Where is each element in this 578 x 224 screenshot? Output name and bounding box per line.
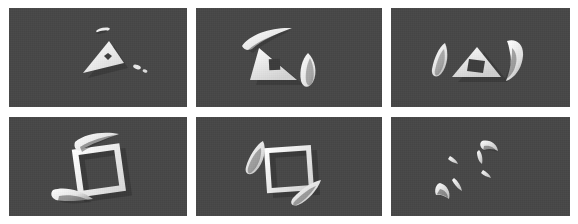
panel-6-canvas — [391, 117, 570, 216]
triangle-aperture-quad — [467, 59, 485, 73]
fragment-e — [452, 178, 462, 191]
panel-5: Panel 5 — [196, 117, 382, 216]
fragment-c — [448, 156, 458, 164]
panel-3-canvas — [391, 8, 570, 107]
panel-1: Panel 1 — [9, 8, 187, 107]
panel-2-canvas — [196, 8, 382, 107]
panel-4: Panel 4 — [9, 117, 187, 216]
figure-grid: Panel 1 Panel 2 — [0, 0, 578, 224]
panel-1-canvas — [9, 8, 187, 107]
panel-2: Panel 2 — [196, 8, 382, 107]
triangle-aperture-square — [269, 59, 281, 71]
fragment-right — [133, 64, 142, 70]
fragment-right-small — [142, 69, 148, 74]
fragment-d — [481, 170, 491, 178]
panel-6: Panel 6 — [391, 117, 570, 216]
panel-5-canvas — [196, 117, 382, 216]
panel-3: Panel 3 — [391, 8, 570, 107]
panel-4-canvas — [9, 117, 187, 216]
fragment-b — [477, 150, 482, 164]
